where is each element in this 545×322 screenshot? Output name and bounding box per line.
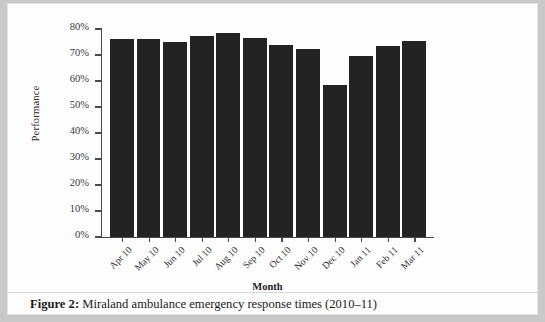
- bar: [110, 39, 134, 237]
- y-axis-tick-label: 0%: [75, 229, 89, 240]
- bar: [137, 39, 161, 237]
- x-axis-tick-mark: [228, 238, 229, 242]
- x-axis-tick-mark: [202, 238, 203, 242]
- caption-divider: [8, 292, 537, 293]
- bar: [349, 56, 373, 237]
- y-axis-tick-label: 20%: [70, 177, 89, 188]
- x-axis-tick-mark: [255, 238, 256, 242]
- x-axis-label: Month: [102, 281, 433, 292]
- x-axis-tick-mark: [361, 238, 362, 242]
- bar-chart: Performance 0%10%20%30%40%50%60%70%80% A…: [8, 4, 537, 284]
- y-axis-tick-mark: [95, 158, 102, 159]
- y-axis-tick-mark: [95, 132, 102, 133]
- plot-area: [102, 29, 433, 237]
- x-axis-tick-mark: [149, 238, 150, 242]
- y-axis-tick-mark: [95, 106, 102, 107]
- x-axis-tick-mark: [335, 238, 336, 242]
- y-axis-tick-label: 10%: [70, 203, 89, 214]
- y-axis-tick-label: 50%: [70, 99, 89, 110]
- y-axis-tick-mark: [95, 184, 102, 185]
- caption-text: Miraland ambulance emergency response ti…: [82, 297, 377, 311]
- figure-caption: Figure 2: Miraland ambulance emergency r…: [30, 296, 520, 312]
- y-axis-tick-mark: [95, 236, 102, 237]
- y-axis-label: Performance: [30, 54, 41, 174]
- x-axis-tick-mark: [175, 238, 176, 242]
- x-axis-tick-mark: [414, 238, 415, 242]
- y-axis-tick-label: 30%: [70, 151, 89, 162]
- x-axis-tick-mark: [308, 238, 309, 242]
- bar: [296, 49, 320, 238]
- y-axis-tick-mark: [95, 28, 102, 29]
- y-axis-tick-label: 80%: [70, 21, 89, 32]
- y-axis-tick-mark: [95, 210, 102, 211]
- figure-sheet: Performance 0%10%20%30%40%50%60%70%80% A…: [8, 4, 537, 314]
- caption-prefix: Figure 2:: [30, 297, 79, 311]
- y-axis-tick-label: 70%: [70, 47, 89, 58]
- bar: [376, 46, 400, 237]
- y-axis-tick-mark: [95, 54, 102, 55]
- bar: [323, 85, 347, 237]
- x-axis-tick-mark: [281, 238, 282, 242]
- bar: [216, 33, 240, 237]
- y-axis-tick-label: 60%: [70, 73, 89, 84]
- x-axis-tick-mark: [388, 238, 389, 242]
- page-background: Performance 0%10%20%30%40%50%60%70%80% A…: [0, 0, 545, 322]
- x-axis-line: [101, 237, 434, 238]
- y-axis-tick-label: 40%: [70, 125, 89, 136]
- y-axis-tick-mark: [95, 80, 102, 81]
- bar: [402, 41, 426, 237]
- bar: [243, 38, 267, 237]
- bar: [269, 45, 293, 237]
- bar: [190, 36, 214, 238]
- x-axis-tick-mark: [122, 238, 123, 242]
- bar: [163, 42, 187, 237]
